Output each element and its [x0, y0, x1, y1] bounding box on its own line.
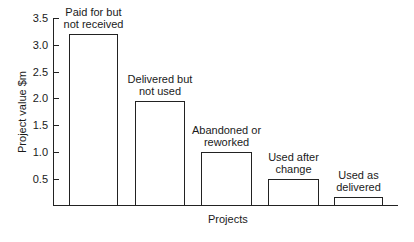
- y-tick-label: 3.0: [24, 39, 48, 51]
- bar-label-line: Paid for but: [49, 6, 139, 18]
- bar: [268, 179, 319, 206]
- bar-label: Used asdelivered: [314, 169, 404, 193]
- bar-label-line: delivered: [314, 181, 404, 193]
- bar-label-line: reworked: [182, 136, 272, 148]
- y-tick-label: 3.5: [24, 12, 48, 24]
- bar-label: Paid for butnot received: [49, 6, 139, 30]
- bar-label-line: Delivered but: [115, 73, 205, 85]
- bar: [135, 101, 185, 206]
- y-axis-label: Project value $m: [16, 52, 28, 172]
- y-tick: [53, 98, 59, 99]
- y-tick: [53, 72, 59, 73]
- bar: [334, 197, 383, 205]
- bar-label: Abandoned orreworked: [182, 124, 272, 148]
- y-tick: [53, 152, 59, 153]
- bar-label-line: Used as: [314, 169, 404, 181]
- bar-label-line: not used: [115, 85, 205, 97]
- y-tick: [53, 125, 59, 126]
- y-tick: [53, 45, 59, 46]
- bar-label-line: not received: [49, 18, 139, 30]
- y-tick: [53, 179, 59, 180]
- bar-label-line: Used after: [249, 151, 339, 163]
- bar: [69, 34, 118, 206]
- bar-label-line: Abandoned or: [182, 124, 272, 136]
- bar: [201, 152, 252, 206]
- bar-label: Delivered butnot used: [115, 73, 205, 97]
- x-axis-label: Projects: [208, 213, 248, 225]
- y-tick-label: 0.5: [24, 173, 48, 185]
